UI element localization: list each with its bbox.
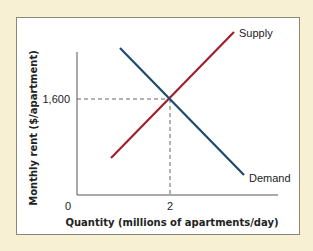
demand-curve <box>120 48 244 175</box>
x-axis-title: Quantity (millions of apartments/day) <box>65 217 278 228</box>
y-tick-label: 1,600 <box>42 93 70 105</box>
supply-curve <box>111 32 234 158</box>
supply-demand-chart: Supply Demand 1,600 2 0 Quantity (millio… <box>0 0 313 251</box>
demand-label: Demand <box>249 172 291 184</box>
supply-label: Supply <box>239 27 273 39</box>
x-tick-label: 2 <box>167 200 173 212</box>
y-axis-title: Monthly rent ($/apartment) <box>28 50 39 206</box>
origin-label: 0 <box>65 200 71 212</box>
